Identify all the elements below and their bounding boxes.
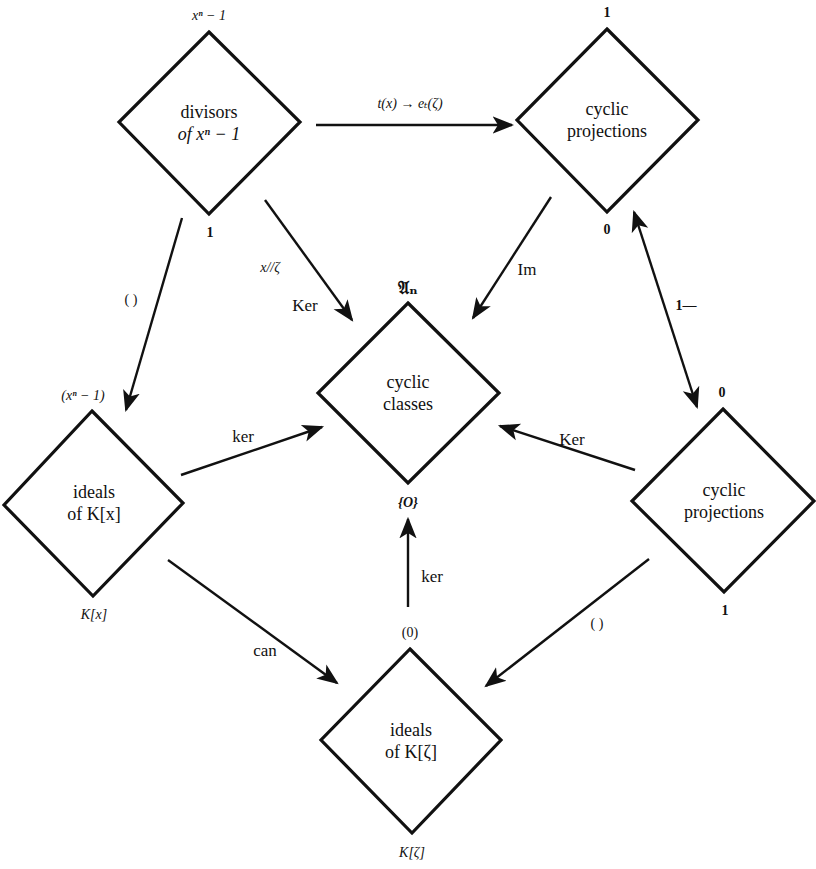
ideals-kx-bottom-label: K[x] (81, 605, 107, 625)
edge-label-projections-right-to-classes: Ker (559, 430, 584, 450)
node-ideals-kx-line1: ideals (67, 481, 120, 503)
cyclic-classes-top-label: 𝔄ₙ (398, 278, 418, 298)
node-divisors: divisors of xⁿ − 1 (178, 101, 240, 145)
node-cyclic-classes-line2: classes (383, 393, 433, 415)
node-cyclic-projections-top-line2: projections (567, 120, 647, 142)
ideals-kzeta-top-label: (0) (402, 623, 418, 643)
edge-label-divisors-to-classes-2: Ker (292, 296, 317, 316)
arrow-divisors-to-ideals-kx (126, 218, 182, 410)
node-ideals-kx: ideals of K[x] (67, 481, 120, 525)
node-cyclic-projections-top-line1: cyclic (567, 98, 647, 120)
divisors-top-label: xⁿ − 1 (192, 6, 226, 26)
arrow-ideals-kx-to-ideals-kzeta (168, 560, 337, 683)
node-divisors-line2: of xⁿ − 1 (178, 123, 240, 145)
node-cyclic-classes: cyclic classes (383, 371, 433, 415)
divisors-bottom-label: 1 (207, 223, 214, 243)
edge-label-projections-to-classes: Im (518, 260, 537, 280)
cyclic-projections-top-bottom-label: 0 (604, 220, 611, 240)
edge-label-divisors-to-projections: t(x) → eₜ(ζ) (377, 94, 442, 114)
node-cyclic-projections-right: cyclic projections (684, 479, 764, 523)
node-ideals-kzeta: ideals of K[ζ] (385, 719, 437, 763)
commutative-diagram: divisors of xⁿ − 1 cyclic projections cy… (0, 0, 816, 869)
edge-label-ideals-kx-to-ideals-kzeta: can (253, 641, 277, 661)
arrow-projections-right-to-ideals-kzeta (486, 559, 649, 686)
arrow-projections-to-classes (473, 197, 551, 318)
node-cyclic-classes-line1: cyclic (383, 371, 433, 393)
edge-label-divisors-to-ideals-kx: ( ) (125, 290, 138, 310)
cyclic-projections-top-top-label: 1 (604, 3, 611, 23)
cyclic-projections-right-bottom-label: 1 (722, 601, 729, 621)
ideals-kx-top-label: (xⁿ − 1) (61, 386, 104, 406)
node-cyclic-projections-top: cyclic projections (567, 98, 647, 142)
edge-label-ideals-kzeta-to-classes: ker (421, 567, 443, 587)
node-ideals-kzeta-line1: ideals (385, 719, 437, 741)
node-divisors-line1: divisors (178, 101, 240, 123)
edge-label-projections-complement: 1— (676, 296, 697, 316)
node-cyclic-projections-right-line1: cyclic (684, 479, 764, 501)
cyclic-projections-right-top-label: 0 (719, 383, 726, 403)
edge-label-ideals-kx-to-classes: ker (232, 427, 254, 447)
ideals-kzeta-bottom-label: K[ζ] (399, 843, 425, 863)
cyclic-classes-bottom-label: {O} (398, 493, 418, 513)
node-ideals-kx-line2: of K[x] (67, 503, 120, 525)
node-ideals-kzeta-line2: of K[ζ] (385, 741, 437, 763)
edge-label-projections-right-to-ideals-kzeta: ( ) (591, 614, 604, 634)
node-cyclic-projections-right-line2: projections (684, 501, 764, 523)
edge-label-divisors-to-classes-1: x//ζ (260, 258, 280, 278)
